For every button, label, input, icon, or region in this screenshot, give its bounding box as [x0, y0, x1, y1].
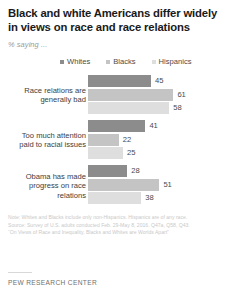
chart-legend: Whites Blacks Hispanics — [8, 57, 228, 66]
chart-group-race-relations-bad: Race relations are generally bad 45 61 5… — [8, 73, 228, 118]
legend-item-whites[interactable]: Whites — [60, 57, 90, 66]
bar-row-whites: 28 — [88, 165, 228, 177]
bar-value-blacks: 22 — [123, 135, 131, 145]
footnote-note: Note: Whites and Blacks include only non… — [8, 214, 230, 221]
page-title: Black and white Americans differ widely … — [8, 7, 228, 34]
group-label-line: Too much attention — [8, 131, 86, 141]
group-label-line: relations — [8, 190, 86, 200]
legend-label-whites: Whites — [67, 57, 90, 66]
group-bars: 41 22 25 — [88, 120, 228, 161]
bar-row-hispanics: 58 — [88, 102, 228, 114]
bar-value-blacks: 61 — [177, 90, 185, 100]
bar-row-blacks: 51 — [88, 179, 228, 191]
pew-chart-figure: Black and white Americans differ widely … — [0, 0, 236, 302]
legend-label-hispanics: Hispanics — [159, 57, 192, 66]
group-label-line: generally bad — [8, 96, 86, 106]
bar-hispanics[interactable] — [88, 147, 123, 159]
bar-value-whites: 28 — [131, 166, 139, 176]
bar-whites[interactable] — [88, 75, 151, 87]
bar-row-blacks: 22 — [88, 134, 228, 146]
bar-value-hispanics: 38 — [145, 193, 153, 203]
group-label-line: progress on race — [8, 181, 86, 191]
legend-item-blacks[interactable]: Blacks — [106, 57, 135, 66]
chart-footnotes: Note: Whites and Blacks include only non… — [8, 214, 230, 236]
chart-group-too-much-attention: Too much attention paid to racial issues… — [8, 118, 228, 163]
brand-pew-research-center: PEW RESEARCH CENTER — [8, 279, 97, 286]
bar-blacks[interactable] — [88, 134, 119, 146]
bar-hispanics[interactable] — [88, 102, 169, 114]
group-label: Too much attention paid to racial issues — [8, 131, 86, 150]
bar-row-whites: 41 — [88, 120, 228, 132]
bar-row-whites: 45 — [88, 75, 228, 87]
bar-blacks[interactable] — [88, 89, 173, 101]
bar-row-hispanics: 38 — [88, 192, 228, 204]
bar-row-blacks: 61 — [88, 89, 228, 101]
bar-value-whites: 41 — [149, 121, 157, 131]
group-label-line: paid to racial issues — [8, 141, 86, 151]
group-label: Race relations are generally bad — [8, 86, 86, 105]
footer-divider — [8, 272, 32, 273]
bar-value-whites: 45 — [155, 76, 163, 86]
legend-swatch-whites — [60, 60, 64, 64]
bar-row-hispanics: 25 — [88, 147, 228, 159]
group-bars: 28 51 38 — [88, 165, 228, 206]
chart-subtitle: % saying ... — [8, 40, 228, 49]
bar-whites[interactable] — [88, 165, 127, 177]
bar-value-hispanics: 25 — [127, 148, 135, 158]
bar-blacks[interactable] — [88, 179, 159, 191]
bar-value-hispanics: 58 — [173, 103, 181, 113]
group-label-line: Race relations are — [8, 86, 86, 96]
legend-item-hispanics[interactable]: Hispanics — [152, 57, 192, 66]
bar-chart: Race relations are generally bad 45 61 5… — [8, 73, 228, 208]
bar-value-blacks: 51 — [163, 180, 171, 190]
group-label-line: Obama has made — [8, 171, 86, 181]
footnote-report-title: “On Views of Race and Inequality, Blacks… — [8, 229, 230, 236]
group-bars: 45 61 58 — [88, 75, 228, 116]
group-label: Obama has made progress on race relation… — [8, 171, 86, 200]
footnote-source: Source: Survey of U.S. adults conducted … — [8, 222, 230, 229]
legend-swatch-blacks — [106, 60, 110, 64]
chart-group-obama-progress: Obama has made progress on race relation… — [8, 163, 228, 208]
bar-whites[interactable] — [88, 120, 145, 132]
legend-label-blacks: Blacks — [113, 57, 135, 66]
legend-swatch-hispanics — [152, 60, 156, 64]
bar-hispanics[interactable] — [88, 192, 141, 204]
